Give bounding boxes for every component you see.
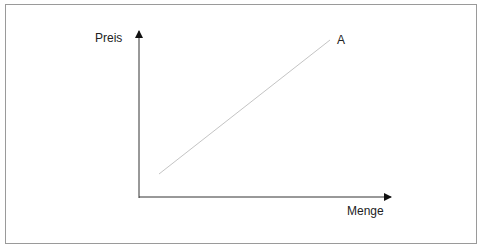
diagram-canvas	[0, 0, 482, 250]
x-axis-label: Menge	[347, 204, 384, 218]
curve-label-a: A	[337, 33, 345, 47]
supply-curve-a	[159, 40, 330, 174]
y-axis-label: Preis	[95, 31, 122, 45]
